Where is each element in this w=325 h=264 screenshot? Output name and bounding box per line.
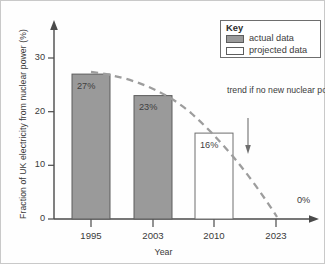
- x-axis-arrowhead: [309, 215, 319, 223]
- x-tick-label-2010: 2010: [191, 230, 237, 241]
- x-tick-label-1995: 1995: [68, 230, 114, 241]
- x-axis-title: Year: [1, 247, 325, 257]
- y-axis-title: Fraction of UK electricity from nuclear …: [18, 17, 28, 232]
- legend-label-actual: actual data: [249, 33, 294, 43]
- annotation-arrowhead: [245, 145, 251, 154]
- y-axis-arrowhead: [50, 20, 58, 30]
- bar-label-2023: 0%: [297, 195, 310, 205]
- y-tick-label-20: 20: [23, 106, 45, 116]
- legend-box: Key actual data projected data: [220, 20, 321, 58]
- legend-label-projected: projected data: [249, 45, 307, 55]
- legend-swatch-actual-icon: [226, 35, 244, 43]
- legend-title: Key: [226, 22, 243, 33]
- bar-1995: [72, 74, 110, 219]
- y-tick-label-30: 30: [23, 52, 45, 62]
- legend-swatch-projected-icon: [226, 47, 244, 55]
- bar-2003: [134, 96, 172, 219]
- bar-label-2003: 23%: [139, 102, 157, 112]
- y-tick-label-10: 10: [23, 159, 45, 169]
- x-tick-label-2023: 2023: [253, 230, 299, 241]
- chart-frame: Fraction of UK electricity from nuclear …: [0, 0, 325, 264]
- trend-annotation-text: trend if no new nuclear power stations a…: [227, 85, 323, 96]
- bar-label-1995: 27%: [77, 81, 95, 91]
- x-tick-label-2003: 2003: [130, 230, 176, 241]
- bar-label-2010: 16%: [200, 140, 218, 150]
- y-tick-label-0: 0: [23, 213, 45, 223]
